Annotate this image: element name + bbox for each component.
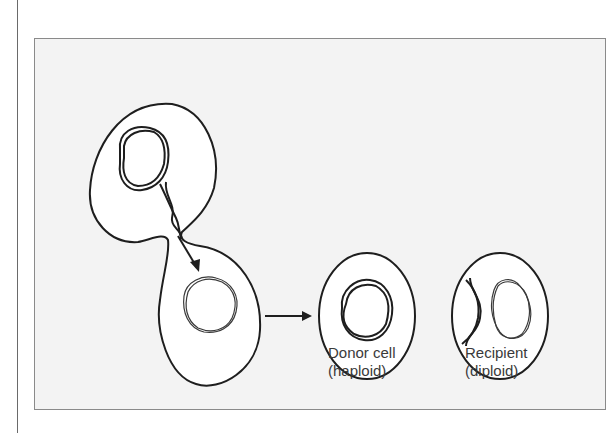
donor-cell-label-line1: Donor cell xyxy=(328,344,396,362)
recipient-cell-label-line2: (diploid) xyxy=(465,362,528,380)
recipient-cell-label-line1: Recipient xyxy=(465,344,528,362)
donor-cell-label: Donor cell (haploid) xyxy=(328,344,396,380)
recipient-cell-label: Recipient (diploid) xyxy=(465,344,528,380)
conjugating-cell-outline xyxy=(90,104,260,386)
result-arrow-icon xyxy=(265,311,312,321)
donor-cell-label-line2: (haploid) xyxy=(328,362,396,380)
